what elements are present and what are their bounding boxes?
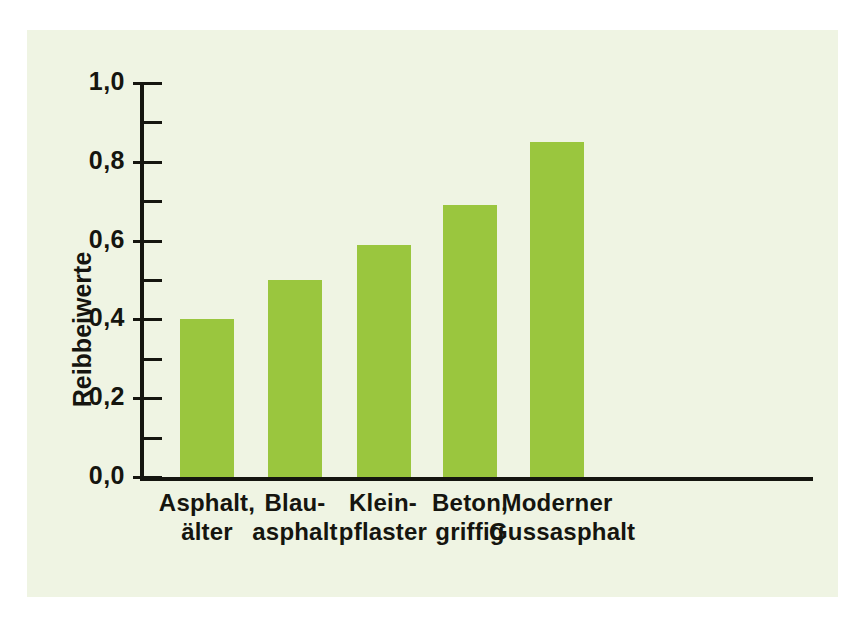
bar	[268, 280, 322, 477]
bar	[357, 245, 411, 477]
y-tick-major	[133, 318, 162, 321]
bar	[180, 319, 234, 477]
y-tick-minor	[144, 437, 162, 440]
plot-area: 0,00,20,40,60,81,0 Asphalt,älterBlau-asp…	[27, 30, 838, 597]
y-tick-label: 0,0	[59, 461, 125, 490]
x-tick-label-line: Moderner	[489, 488, 625, 517]
x-tick-label: ModernerGussasphalt	[489, 488, 625, 547]
y-tick-minor	[144, 121, 162, 124]
chart-panel: 0,00,20,40,60,81,0 Asphalt,älterBlau-asp…	[27, 30, 838, 597]
y-tick-major	[133, 240, 162, 243]
y-axis-title: Reibbeiwerte	[68, 235, 97, 425]
y-tick-major	[133, 397, 162, 400]
figure-root: 0,00,20,40,60,81,0 Asphalt,älterBlau-asp…	[0, 0, 865, 618]
y-tick-label: 0,8	[59, 146, 125, 175]
y-tick-minor	[144, 200, 162, 203]
y-tick-minor	[144, 279, 162, 282]
y-tick-label: 1,0	[59, 67, 125, 96]
y-tick-major	[133, 82, 162, 85]
bar	[443, 205, 497, 477]
y-tick-major	[133, 161, 162, 164]
y-tick-major	[133, 476, 162, 479]
x-tick-label-line: Gussasphalt	[489, 517, 625, 546]
bar	[530, 142, 584, 477]
y-tick-minor	[144, 358, 162, 361]
x-axis-line	[140, 477, 813, 481]
